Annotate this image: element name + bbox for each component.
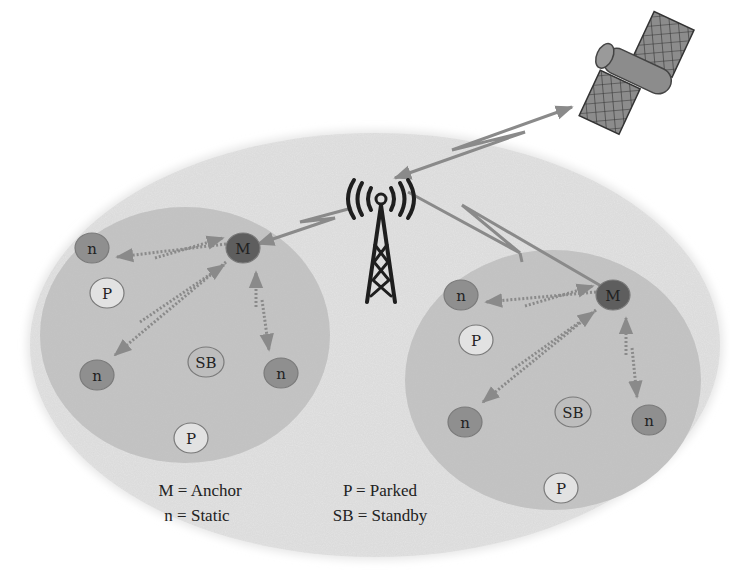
node-label: n <box>644 412 654 430</box>
satellite-icon <box>570 0 696 145</box>
node-label: M <box>605 287 620 305</box>
left-cluster-node-static: n <box>80 360 114 390</box>
right-cluster-node-static: n <box>632 405 666 435</box>
right-cluster-node-anchor: M <box>596 280 630 310</box>
left-cluster-node-static: n <box>264 358 298 388</box>
network-diagram: MnPnSBnPMnPnSBnP M = Anchor n = Static P… <box>0 0 730 587</box>
node-label: M <box>235 240 250 258</box>
node-label: SB <box>562 404 583 422</box>
node-label: P <box>556 480 566 498</box>
right-cluster-node-static: n <box>444 280 478 310</box>
node-label: P <box>186 430 196 448</box>
node-label: P <box>471 332 481 350</box>
right-cluster-node-parked: P <box>544 473 578 503</box>
right-cluster-node-static: n <box>448 407 482 437</box>
legend-anchor: M = Anchor <box>158 481 242 500</box>
legend-parked: P = Parked <box>343 481 418 500</box>
legend-static: n = Static <box>164 506 230 525</box>
left-cluster-node-static: n <box>75 233 109 263</box>
left-cluster-node-standby: SB <box>188 347 224 377</box>
node-label: P <box>102 285 112 303</box>
left-cluster-node-parked: P <box>174 423 208 453</box>
node-label: n <box>276 365 286 383</box>
node-label: n <box>456 287 466 305</box>
legend-standby: SB = Standby <box>333 506 428 525</box>
node-label: n <box>87 240 97 258</box>
node-label: SB <box>195 354 216 372</box>
left-cluster-node-anchor: M <box>226 233 260 263</box>
right-cluster-node-parked: P <box>459 325 493 355</box>
left-cluster-node-parked: P <box>90 278 124 308</box>
node-label: n <box>460 414 470 432</box>
right-cluster-node-standby: SB <box>555 397 591 427</box>
node-label: n <box>92 367 102 385</box>
